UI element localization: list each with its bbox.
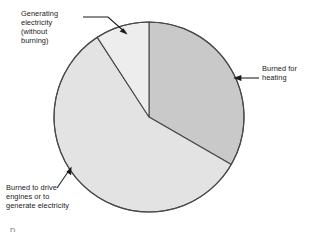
slice-label-burned-for-heating: Burned for heating — [262, 64, 316, 82]
pie-chart-figure: Generating electricity (without burning)… — [0, 0, 316, 237]
clipped-footer-text: D — [10, 226, 50, 232]
slice-label-burned-to-drive-engines: Burned to drive engines or to generate e… — [6, 183, 110, 210]
slice-label-generating-electricity: Generating electricity (without burning) — [21, 9, 83, 45]
